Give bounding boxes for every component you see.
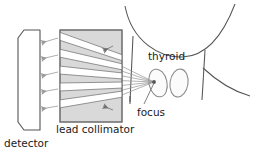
patient-body-outline	[125, 4, 250, 104]
detector-arrow-3-icon	[41, 72, 58, 76]
shoulder-line	[203, 68, 250, 96]
detector-outline	[18, 30, 40, 130]
label-thyroid: thyroid	[148, 50, 185, 62]
label-detector: detector	[4, 137, 49, 149]
thyroid-scanner-diagram: thyroid focus lead collimator detector	[0, 0, 256, 156]
thyroid-right-lobe	[168, 68, 190, 98]
diagram-canvas: thyroid focus lead collimator detector	[0, 0, 256, 156]
lead-collimator	[59, 30, 123, 122]
detector-arrow-2-icon	[41, 55, 58, 59]
neck-left-line	[130, 36, 133, 102]
detector-arrow-1-icon	[41, 38, 58, 43]
neck-right-line	[202, 50, 205, 100]
detected-ray-arrows	[41, 38, 58, 109]
detector-arrow-5-icon	[41, 106, 58, 109]
detector-arrow-4-icon	[41, 89, 58, 92]
label-lead-collimator: lead collimator	[56, 123, 135, 135]
label-focus: focus	[137, 106, 165, 118]
detector-body	[18, 30, 40, 130]
